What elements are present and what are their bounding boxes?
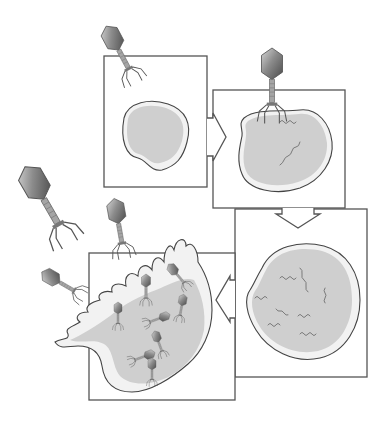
lytic-cycle-diagram	[0, 0, 390, 428]
phage-icon	[37, 264, 90, 306]
panel-4-lysis	[55, 240, 235, 400]
panel-1-attachment	[95, 20, 207, 187]
panel-2-injection	[213, 48, 345, 208]
panel-3-replication	[235, 209, 367, 377]
phage-icon	[10, 158, 85, 253]
phage-icon	[102, 196, 136, 260]
